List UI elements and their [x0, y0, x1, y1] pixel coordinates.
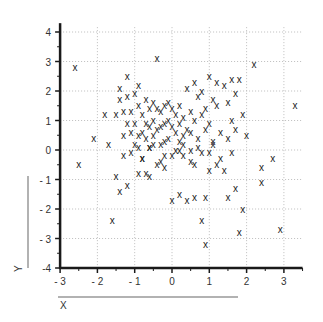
data-point-marker: x [102, 109, 107, 120]
data-point-marker: x [211, 139, 216, 150]
data-point-marker: x [207, 118, 212, 129]
x-tick-label: 3 [281, 276, 287, 287]
data-point-marker: x [214, 100, 219, 111]
data-point-marker: x [293, 100, 298, 111]
y-tick-label: - 1 [39, 175, 51, 186]
data-point-marker: x [125, 180, 130, 191]
data-point-marker: x [270, 153, 275, 164]
data-point-marker: x [218, 127, 223, 138]
data-point-marker: x [147, 142, 152, 153]
data-point-marker: x [214, 159, 219, 170]
data-point-marker: x [136, 168, 141, 179]
data-point-marker: x [233, 124, 238, 135]
data-point-marker: x [203, 239, 208, 250]
data-point-marker: x [259, 177, 264, 188]
data-point-marker: x [188, 127, 193, 138]
data-point-marker: x [229, 74, 234, 85]
data-point-marker: x [203, 103, 208, 114]
data-point-marker: x [188, 145, 193, 156]
x-tick-label: 0 [169, 276, 175, 287]
data-point-marker: x [259, 162, 264, 173]
data-point-marker: x [132, 118, 137, 129]
data-point-marker: x [192, 115, 197, 126]
data-point-marker: x [203, 192, 208, 203]
y-tick-label: - 3 [39, 234, 51, 245]
data-point-marker: x [207, 71, 212, 82]
data-point-marker: x [184, 83, 189, 94]
data-point-marker: x [121, 130, 126, 141]
data-point-marker: x [162, 150, 167, 161]
data-point-marker: x [128, 106, 133, 117]
scatter-chart: xxxxxxxxxxxxxxxxxxxxxxxxxxxxxxxxxxxxxxxx… [0, 0, 323, 322]
data-point-marker: x [192, 192, 197, 203]
data-point-marker: x [240, 204, 245, 215]
data-point-marker: x [114, 109, 119, 120]
data-point-marker: x [121, 106, 126, 117]
data-point-marker: x [222, 80, 227, 91]
x-tick-label: - 2 [92, 276, 104, 287]
x-tick-label: - 1 [129, 276, 141, 287]
data-point-marker: x [125, 71, 130, 82]
data-point-marker: x [207, 165, 212, 176]
x-tick-label: 1 [207, 276, 213, 287]
data-point-marker: x [166, 133, 171, 144]
data-point-marker: x [252, 59, 257, 70]
data-point-marker: x [136, 80, 141, 91]
data-point-marker: x [233, 183, 238, 194]
data-point-marker: x [181, 112, 186, 123]
data-point-marker: x [117, 83, 122, 94]
data-point-marker: x [177, 189, 182, 200]
data-point-marker: x [199, 86, 204, 97]
data-point-marker: x [136, 142, 141, 153]
y-tick-label: 1 [46, 116, 52, 127]
data-point-marker: x [128, 147, 133, 158]
x-axis-title: X [60, 300, 67, 311]
y-tick-label: 2 [46, 86, 52, 97]
data-point-marker: x [278, 224, 283, 235]
data-point-marker: x [117, 186, 122, 197]
data-point-marker: x [125, 91, 130, 102]
data-point-marker: x [196, 142, 201, 153]
data-point-marker: x [73, 62, 78, 73]
data-point-marker: x [240, 109, 245, 120]
data-point-marker: x [192, 77, 197, 88]
data-point-marker: x [91, 133, 96, 144]
data-point-marker: x [117, 94, 122, 105]
data-point-marker: x [225, 133, 230, 144]
data-point-marker: x [76, 159, 81, 170]
data-point-marker: x [199, 215, 204, 226]
y-tick-label: 4 [46, 27, 52, 38]
data-point-marker: x [184, 195, 189, 206]
data-point-marker: x [237, 227, 242, 238]
data-point-marker: x [244, 130, 249, 141]
data-points: xxxxxxxxxxxxxxxxxxxxxxxxxxxxxxxxxxxxxxxx… [73, 53, 298, 250]
data-point-marker: x [143, 168, 148, 179]
y-tick-label: 3 [46, 57, 52, 68]
data-point-marker: x [225, 192, 230, 203]
data-point-marker: x [237, 74, 242, 85]
data-point-marker: x [121, 150, 126, 161]
data-point-marker: x [229, 147, 234, 158]
data-point-marker: x [110, 215, 115, 226]
data-point-marker: x [222, 165, 227, 176]
data-point-marker: x [170, 195, 175, 206]
data-point-marker: x [140, 153, 145, 164]
data-point-marker: x [114, 171, 119, 182]
y-tick-label: - 2 [39, 204, 51, 215]
x-tick-label: - 3 [54, 276, 66, 287]
data-point-marker: x [177, 100, 182, 111]
data-point-marker: x [106, 139, 111, 150]
data-point-marker: x [177, 145, 182, 156]
y-axis-title: Y [13, 265, 24, 272]
data-point-marker: x [192, 159, 197, 170]
y-tick-label: -4 [42, 263, 51, 274]
data-point-marker: x [214, 77, 219, 88]
y-tick-label: 0 [46, 145, 52, 156]
data-point-marker: x [233, 88, 238, 99]
data-point-marker: x [225, 97, 230, 108]
data-point-marker: x [155, 159, 160, 170]
data-point-marker: x [155, 53, 160, 64]
x-tick-label: 2 [244, 276, 250, 287]
